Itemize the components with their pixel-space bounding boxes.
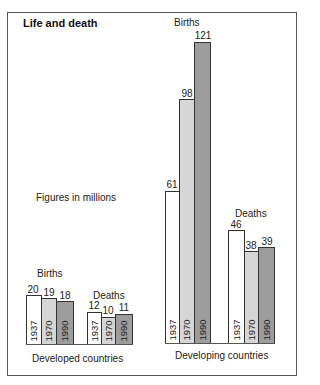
year-label: 1937 [232,319,242,340]
developed-births-label: Births [37,268,63,279]
developing-caption: Developing countries [175,350,268,361]
year-label: 1970 [247,319,257,340]
developing-baseline [165,343,275,344]
bar-developed-deaths-1937: 1937 [87,312,102,345]
units-note: Figures in millions [36,192,116,203]
bar-developed-births-1990: 1990 [56,301,74,345]
bar-developing-births-1937: 1937 [165,191,180,344]
developed-baseline [26,344,133,345]
value-label: 39 [255,236,279,247]
developing-deaths-label: Deaths [235,208,267,219]
bar-developed-births-1970: 1970 [41,298,57,345]
bar-developing-births-1970: 1970 [179,99,195,344]
year-label: 1937 [90,320,100,341]
developed-caption: Developed countries [32,353,123,364]
bar-developing-births-1990: 1990 [194,42,211,344]
developing-births-label: Births [174,17,200,28]
value-label: 121 [191,30,215,41]
value-label: 18 [53,290,77,301]
year-label: 1990 [60,320,70,341]
value-label: 46 [224,219,248,230]
chart-title: Life and death [23,17,98,29]
value-label: 11 [112,302,136,313]
year-label: 1970 [182,319,192,340]
year-label: 1970 [44,320,54,341]
bar-developing-deaths-1970: 1970 [244,251,259,344]
year-label: 1990 [119,320,129,341]
year-label: 1990 [262,319,272,340]
year-label: 1937 [168,319,178,340]
year-label: 1970 [104,320,114,341]
bar-developing-deaths-1990: 1990 [258,247,275,344]
bar-developed-births-1937: 1937 [26,295,42,345]
bar-developed-deaths-1990: 1990 [115,314,133,345]
year-label: 1990 [198,319,208,340]
year-label: 1937 [29,320,39,341]
bar-developed-deaths-1970: 1970 [101,317,116,345]
